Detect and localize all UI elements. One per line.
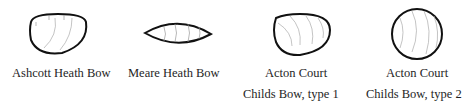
ashcott-heath-bow-section bbox=[30, 14, 86, 53]
label-ashcott-heath-bow: Ashcott Heath Bow bbox=[12, 66, 111, 81]
acton-court-type1-section bbox=[274, 14, 330, 55]
meare-heath-bow-section bbox=[145, 24, 211, 43]
label-acton-court-type2-line2: Childs Bow, type 2 bbox=[366, 87, 462, 102]
label-acton-court-type1-line1: Acton Court bbox=[265, 66, 327, 81]
label-acton-court-type2-line1: Acton Court bbox=[386, 66, 448, 81]
acton-court-type2-section bbox=[392, 9, 442, 59]
label-meare-heath-bow: Meare Heath Bow bbox=[128, 66, 220, 81]
label-acton-court-type1-line2: Childs Bow, type 1 bbox=[243, 87, 339, 102]
